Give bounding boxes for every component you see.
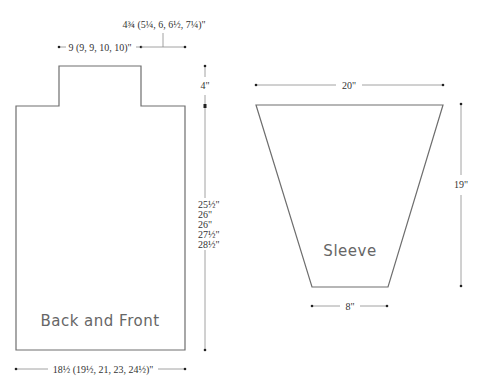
back-and-front-piece: Back and Front <box>16 66 185 350</box>
body-width-label: 18½ (19½, 21, 23, 24½)" <box>53 364 154 376</box>
body-width-dimension: 18½ (19½, 21, 23, 24½)" <box>15 362 187 376</box>
neck-width-label: 9 (9, 9, 10, 10)" <box>68 42 131 54</box>
back-and-front-outline <box>16 66 185 350</box>
sleeve-piece: Sleeve <box>256 105 443 287</box>
body-length-label-5: 28½" <box>198 239 220 250</box>
shoulder-height-label: 4" <box>200 80 209 91</box>
shoulder-height-dimension: 4" <box>200 65 209 106</box>
sleeve-bottom-width-label: 8" <box>345 301 354 312</box>
sleeve-bottom-width-dimension: 8" <box>311 299 389 313</box>
sleeve-top-width-label: 20" <box>342 80 356 91</box>
sleeve-label: Sleeve <box>323 242 376 260</box>
sleeve-length-label: 19" <box>454 179 468 190</box>
knitting-schematic: Back and Front 9 (9, 9, 10, 10)" 4¾ (5¼,… <box>0 0 478 382</box>
sleeve-length-dimension: 19" <box>454 103 468 288</box>
neck-width-dimension: 9 (9, 9, 10, 10)" <box>58 40 143 54</box>
body-length-dimension: 25½" 26" 26" 27½" 28½" <box>198 104 220 351</box>
sleeve-top-width-dimension: 20" <box>255 78 445 92</box>
back-and-front-label: Back and Front <box>40 312 159 330</box>
shoulder-width-label: 4¾ (5¼, 6, 6½, 7¼)" <box>122 19 205 31</box>
